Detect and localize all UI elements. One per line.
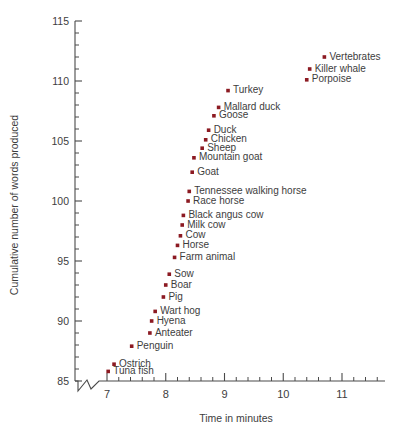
data-point: Vertebrates [323,51,381,62]
data-point-label: Goat [197,166,219,177]
data-point-label: Horse [183,239,210,250]
data-point-marker [226,89,230,93]
data-point-label: Pig [168,291,182,302]
data-point-marker [190,170,194,174]
data-point: Tuna fish [106,365,154,376]
y-tick-label: 90 [57,315,69,327]
data-point-label: Sow [174,268,194,279]
y-tick-label: 95 [57,255,69,267]
data-point-label: Farm animal [180,251,236,262]
data-point-marker [207,128,211,132]
data-point-label: Porpoise [312,73,352,84]
data-point-label: Milk cow [187,219,226,230]
data-point: Hyena [150,315,186,326]
data-point-label: Race horse [193,195,245,206]
y-axis-title: Cumulative number of words produced [8,115,20,296]
data-point: Porpoise [305,73,352,84]
data-point: Farm animal [173,251,235,262]
data-point-marker [173,256,177,260]
data-point-label: Tuna fish [113,365,154,376]
data-point-marker [106,370,110,374]
data-point-marker [200,146,204,150]
y-tick-label: 100 [51,195,69,207]
data-point-label: Vertebrates [329,51,380,62]
data-point: Goat [190,166,219,177]
y-tick-label: 105 [51,135,69,147]
tick-labels-layer: 8590951001051101157891011 [51,15,347,400]
data-point: Boar [164,279,193,290]
data-point-label: Penguin [137,340,174,351]
data-point: Goose [212,109,249,120]
data-point-label: Boar [171,279,193,290]
data-point-marker [180,223,184,227]
data-point: Sow [167,268,194,279]
x-axis-title: Time in minutes [199,412,273,424]
data-point: Race horse [186,195,244,206]
y-tick-label: 85 [57,375,69,387]
data-point: Killer whale [308,63,366,74]
data-point-marker [308,67,312,71]
y-tick-label: 115 [52,15,69,27]
data-point: Horse [176,239,210,250]
data-point-marker [153,310,157,314]
data-point-marker [167,272,171,276]
data-points-layer: VertebratesKiller whalePorpoiseTurkeyMal… [106,51,380,376]
data-point-marker [187,190,191,194]
data-point-marker [162,295,166,299]
data-point-marker [130,344,134,348]
data-point: Milk cow [180,219,226,230]
data-point: Anteater [148,327,193,338]
data-point: Mountain goat [192,151,262,162]
data-point-marker [164,283,168,287]
scatter-chart: 8590951001051101157891011 VertebratesKil… [0,0,411,435]
data-point-marker [192,156,196,160]
data-point-marker [305,78,309,82]
data-point-label: Turkey [233,84,263,95]
x-tick-label: 9 [221,388,227,400]
data-point-label: Killer whale [315,63,367,74]
data-point-label: Mountain goat [199,151,263,162]
data-point: Turkey [226,84,263,95]
x-tick-label: 8 [163,388,169,400]
data-point-marker [179,234,183,238]
data-point-marker [148,331,152,335]
data-point-label: Anteater [155,327,193,338]
x-tick-label: 10 [277,388,289,400]
data-point-marker [182,214,186,218]
y-tick-label: 110 [52,75,69,87]
data-point-marker [176,244,180,248]
data-point: Penguin [130,340,174,351]
data-point: Pig [162,291,183,302]
data-point-marker [186,199,190,203]
x-tick-label: 11 [336,388,347,400]
x-tick-label: 7 [104,388,110,400]
chart-canvas: 8590951001051101157891011 VertebratesKil… [0,0,411,435]
data-point-marker [212,114,216,118]
data-point-label: Hyena [157,315,186,326]
data-point-marker [323,55,327,59]
data-point-marker [150,319,154,323]
data-point-label: Goose [219,109,249,120]
